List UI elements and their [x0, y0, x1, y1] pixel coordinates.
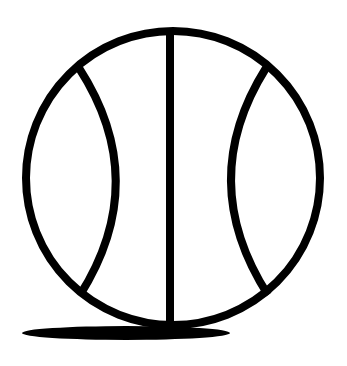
left-curved-seam — [79, 68, 116, 295]
basketball-illustration — [0, 0, 347, 366]
right-curved-seam — [231, 68, 268, 295]
basketball-icon — [0, 0, 347, 366]
ground-shadow — [22, 326, 230, 340]
